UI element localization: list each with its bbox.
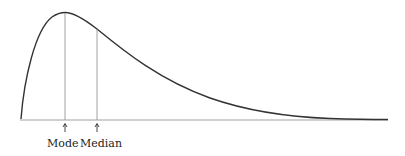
mode-arrow-icon	[63, 124, 67, 133]
skewed-distribution-diagram: Mode Median	[0, 0, 405, 156]
mode-label: Mode	[47, 137, 78, 150]
median-arrow-icon	[95, 124, 99, 133]
distribution-curve	[21, 13, 388, 120]
median-label: Median	[80, 137, 122, 150]
